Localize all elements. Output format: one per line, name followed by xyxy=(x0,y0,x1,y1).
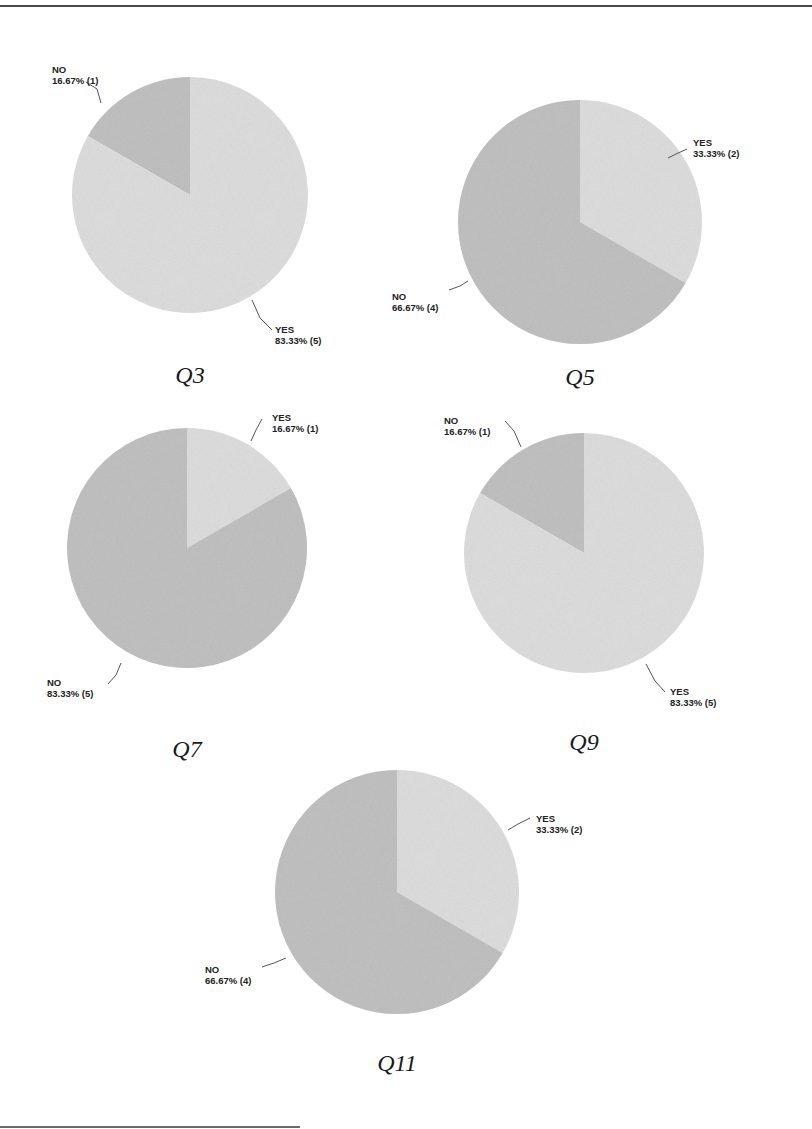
slice-label: YES xyxy=(693,137,712,148)
slice-value: 16.67% (1) xyxy=(272,423,318,434)
chart-caption: Q3 xyxy=(175,362,204,388)
leader-line xyxy=(449,281,468,290)
pie-chart-grid: NO16.67% (1)YES83.33% (5)Q3 YES33.33% (2… xyxy=(0,0,812,1129)
slice-label: NO xyxy=(392,291,406,302)
pie-q9: NO16.67% (1)YES83.33% (5)Q9 xyxy=(444,415,716,755)
chart-caption: Q9 xyxy=(569,729,598,755)
slice-label: YES xyxy=(536,813,555,824)
slice-label: NO xyxy=(47,677,61,688)
pie-q7: YES16.67% (1)NO83.33% (5)Q7 xyxy=(47,412,318,762)
slice-value: 66.67% (4) xyxy=(392,302,438,313)
leader-line xyxy=(508,818,530,830)
pie-q3: NO16.67% (1)YES83.33% (5)Q3 xyxy=(52,64,321,388)
slice-value: 33.33% (2) xyxy=(536,824,582,835)
leader-line xyxy=(108,663,121,684)
pie-q11: YES33.33% (2)NO66.67% (4)Q11 xyxy=(205,770,582,1076)
leader-line xyxy=(262,958,286,967)
slice-value: 83.33% (5) xyxy=(275,335,321,346)
slice-value: 16.67% (1) xyxy=(52,75,98,86)
slice-label: NO xyxy=(52,64,66,75)
slice-label: NO xyxy=(444,415,458,426)
chart-caption: Q7 xyxy=(172,736,202,762)
leader-line xyxy=(505,421,521,447)
slice-label: NO xyxy=(205,964,219,975)
slice-label: YES xyxy=(670,686,689,697)
slice-label: YES xyxy=(275,324,294,335)
pie-q5: YES33.33% (2)NO66.67% (4)Q5 xyxy=(392,100,739,390)
slice-value: 83.33% (5) xyxy=(47,688,93,699)
leader-line xyxy=(251,419,262,441)
slice-value: 33.33% (2) xyxy=(693,148,739,159)
leader-line xyxy=(646,664,665,692)
chart-caption: Q5 xyxy=(565,364,594,390)
leader-line xyxy=(252,300,272,330)
slice-value: 66.67% (4) xyxy=(205,975,251,986)
slice-value: 83.33% (5) xyxy=(670,697,716,708)
slice-value: 16.67% (1) xyxy=(444,426,490,437)
chart-caption: Q11 xyxy=(377,1050,417,1076)
slice-label: YES xyxy=(272,412,291,423)
